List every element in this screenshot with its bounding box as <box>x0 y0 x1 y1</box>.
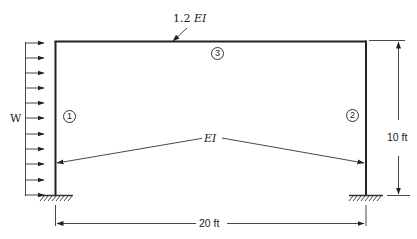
beam-stiffness-symbol: EI <box>194 12 206 25</box>
right-fixed-support <box>349 196 383 202</box>
left-fixed-support <box>40 196 73 202</box>
beam-stiffness-leader <box>173 28 187 41</box>
member-2-marker: 2 <box>346 109 359 122</box>
beam-stiffness-label: 1.2 EI <box>173 13 206 24</box>
right-column-ei-leader <box>222 138 364 163</box>
frame <box>55 41 367 196</box>
load-label: W <box>10 113 21 124</box>
span-dimension-label: 20 ft <box>199 218 219 229</box>
left-column-ei-leader <box>57 138 204 163</box>
distributed-load-arrows <box>26 42 45 196</box>
height-dimension <box>369 41 410 196</box>
beam-stiffness-number: 1.2 <box>173 12 191 25</box>
member-3-marker: 3 <box>211 47 224 60</box>
member-1-marker: 1 <box>63 110 76 123</box>
height-dimension-label: 10 ft <box>385 132 409 143</box>
column-stiffness-label: EI <box>202 133 218 144</box>
